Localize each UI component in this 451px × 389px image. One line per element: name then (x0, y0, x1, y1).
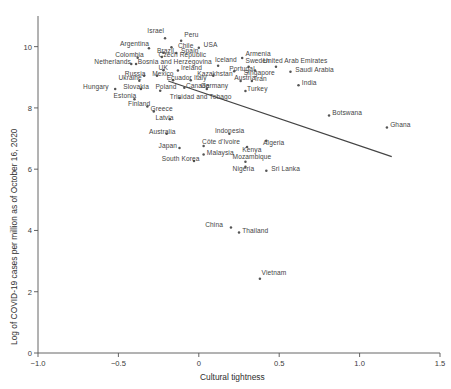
data-point (178, 147, 181, 150)
data-point-label: Trinidad and Tobago (170, 94, 232, 101)
y-tick-label: 10 (14, 43, 32, 52)
data-point-label: Australia (149, 129, 176, 136)
data-point (386, 126, 389, 128)
data-point (230, 226, 233, 229)
data-point (244, 161, 247, 164)
data-point-label: United Arab Emirates (263, 58, 327, 65)
data-point (177, 69, 180, 72)
data-point-label: Côte d'Ivoire (202, 139, 240, 146)
data-point-label: Algeria (263, 140, 284, 147)
data-point-label: India (302, 80, 317, 87)
data-point-label: Greece (151, 106, 173, 113)
data-point-label: Netherlands (94, 59, 131, 66)
x-tick-label: 1.5 (428, 359, 451, 368)
data-point (241, 57, 244, 60)
data-point-label: Sri Lanka (271, 166, 300, 173)
data-point (275, 66, 278, 69)
data-point (238, 231, 241, 234)
data-point-label: Argentina (120, 41, 149, 48)
data-point-label: Botswana (332, 110, 362, 117)
x-tick-label: 0 (187, 359, 211, 368)
data-point-label: Malaysia (207, 150, 234, 157)
data-point-label: Ghana (390, 122, 410, 129)
y-tick-label: 8 (14, 104, 32, 113)
data-point-label: Peru (184, 32, 198, 39)
data-point-label: Turkey (247, 86, 268, 93)
data-point-label: South Korea (162, 156, 200, 163)
data-point-label: Germany (200, 83, 228, 90)
data-point-label: Estonia (114, 93, 137, 100)
x-tick-label: 1.0 (348, 359, 372, 368)
data-point-label: Slovakia (123, 84, 149, 91)
data-point-label: Indonesia (215, 128, 245, 135)
y-tick-label: 0 (14, 349, 32, 358)
data-point-label: Thailand (242, 228, 268, 235)
x-tick-label: −1.0 (26, 359, 50, 368)
data-point-label: Italy (194, 75, 207, 82)
data-point (217, 64, 220, 67)
x-tick-label: −0.5 (106, 359, 130, 368)
x-tick-label: 0.5 (267, 359, 291, 368)
data-point-label: Mozambique (233, 154, 272, 161)
data-point-label: Japan (159, 143, 177, 150)
data-point (328, 114, 331, 117)
data-point-label: Ukraine (118, 75, 141, 82)
data-point-label: Ecuador (167, 75, 192, 82)
data-point (114, 88, 117, 91)
scatter-plot: IsraelPeruArgentinaChileUSABrazilSpainCo… (0, 0, 451, 389)
y-axis-title: Log of COVID-19 cases per million as of … (9, 129, 19, 345)
data-point-label: Latvia (155, 115, 173, 122)
data-point-label: Saudi Arabia (295, 67, 334, 74)
data-point-label: China (205, 222, 223, 229)
data-point (202, 153, 205, 156)
data-point (265, 169, 268, 172)
data-point (289, 71, 292, 74)
data-point-label: Iceland (215, 57, 237, 64)
data-point (259, 278, 262, 281)
data-point-label: Poland (155, 84, 176, 91)
data-point-label: Finland (128, 101, 150, 108)
data-point-label: Hungary (83, 84, 109, 91)
data-point-label: Iran (255, 76, 267, 83)
x-axis-title: Cultural tightness (200, 372, 265, 382)
data-point (297, 84, 300, 87)
data-point (164, 37, 167, 40)
data-point-label: Israel (147, 28, 164, 35)
data-point-label: Austria (234, 75, 255, 82)
data-point-label: USA (204, 42, 218, 49)
data-point-label: Vietnam (262, 270, 287, 277)
data-point-label: Nigeria (233, 166, 255, 173)
